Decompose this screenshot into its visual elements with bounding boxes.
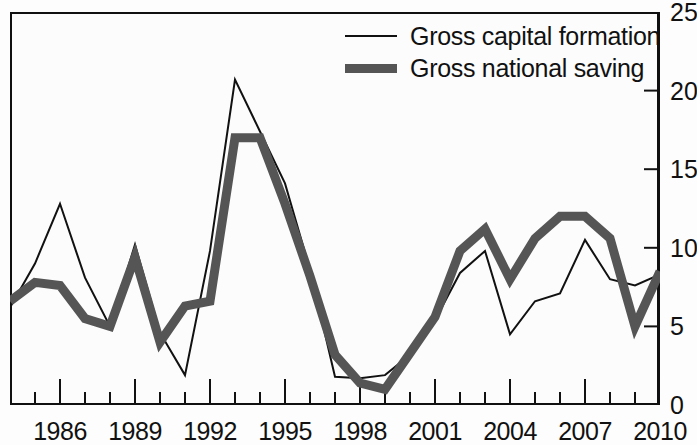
legend-item-gross-national-saving: Gross national saving (345, 52, 660, 84)
y-axis-tick-label: 15 (670, 155, 697, 184)
series-line (10, 138, 660, 390)
legend-item-gross-capital-formation: Gross capital formation (345, 20, 660, 52)
y-axis-tick-label: 0 (670, 391, 684, 420)
x-axis-tick-label: 1989 (108, 417, 162, 445)
legend-label: Gross national saving (410, 54, 644, 83)
x-axis-tick-label: 2007 (558, 417, 612, 445)
x-axis-tick-label: 2004 (483, 417, 537, 445)
y-axis-tick-label: 20 (670, 76, 697, 105)
x-axis-tick-label: 2001 (408, 417, 462, 445)
x-axis-tick-label: 1992 (183, 417, 237, 445)
legend-label: Gross capital formation (410, 22, 660, 51)
x-axis-tick-label: 1995 (258, 417, 312, 445)
series-line (10, 80, 660, 379)
x-axis-tick-label: 1986 (33, 417, 87, 445)
legend-line-swatch-thin (345, 35, 397, 37)
y-axis-tick-label: 25 (670, 0, 697, 27)
chart-legend: Gross capital formation Gross national s… (345, 20, 660, 84)
x-axis-tick-label: 2010 (633, 417, 687, 445)
y-axis-tick-label: 10 (670, 233, 697, 262)
x-axis-tick-label: 1998 (333, 417, 387, 445)
line-chart: 198619891992199519982001200420072010 051… (0, 0, 697, 445)
legend-line-swatch-thick (345, 64, 397, 73)
data-series-layer (10, 80, 660, 390)
y-axis-tick-label: 5 (670, 312, 684, 341)
x-axis-minor-ticks (10, 392, 635, 405)
